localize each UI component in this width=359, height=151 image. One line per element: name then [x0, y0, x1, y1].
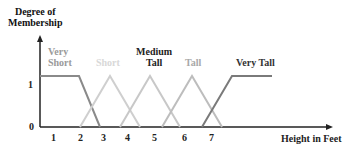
y-axis-label-line1: Degree of	[8, 6, 62, 17]
x-tick-1: 1	[51, 132, 56, 143]
label-short: Short	[96, 57, 120, 68]
curve-very-tall	[202, 76, 272, 127]
x-tick-3: 3	[101, 132, 106, 143]
y-axis-label: Degree of Membership	[8, 6, 62, 28]
x-tick-2: 2	[78, 132, 83, 143]
x-tick-6: 6	[182, 132, 187, 143]
label-medium-tall-line2: Tall	[136, 57, 172, 68]
label-medium-tall-line1: Medium	[136, 46, 172, 57]
x-tick-7: 7	[209, 132, 214, 143]
y-axis-label-line2: Membership	[8, 17, 62, 28]
label-very-tall: Very Tall	[236, 57, 275, 68]
x-axis-arrow-icon	[326, 124, 333, 130]
x-axis-label: Height in Feet	[281, 133, 342, 144]
y-axis-arrow-icon	[37, 35, 43, 42]
label-very-short: Very Short	[48, 46, 72, 68]
curve-tall	[162, 76, 222, 127]
y-tick-1: 1	[28, 79, 33, 90]
y-tick-0: 0	[29, 121, 34, 132]
curve-very-short	[40, 76, 100, 127]
label-very-short-line1: Very	[48, 46, 72, 57]
x-tick-4: 4	[125, 132, 130, 143]
label-tall: Tall	[185, 57, 201, 68]
label-medium-tall: Medium Tall	[136, 46, 172, 68]
curve-medium-tall	[120, 76, 180, 127]
label-very-short-line2: Short	[48, 57, 72, 68]
x-tick-5: 5	[152, 132, 157, 143]
